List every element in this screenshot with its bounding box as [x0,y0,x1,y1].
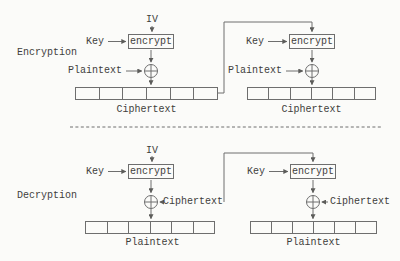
encrypt-box: encrypt [128,164,174,179]
ciphertext-caption: Ciphertext [251,104,372,115]
register-cell [291,87,312,100]
register-cell [194,221,216,234]
decryption-section-label: Decryption [17,190,77,201]
iv-label: IV [146,145,158,156]
xor-icon [145,65,158,78]
register-cell [129,221,151,234]
register-cell [356,221,377,234]
register-cell [247,87,269,100]
cfb-mode-diagram: Encryption IV Key encrypt Plaintext Ciph… [0,0,400,261]
register-cell [272,221,293,234]
plaintext-label: Plaintext [228,65,282,76]
iv-label: IV [146,14,158,25]
register-cell [269,87,290,100]
plaintext-register [250,221,377,234]
register-cell [172,221,194,234]
register-cell [333,87,354,100]
ciphertext-register [247,87,376,100]
register-cell [171,87,195,100]
xor-icon [145,196,158,209]
register-cell [151,221,173,234]
encrypt-box: encrypt [128,34,174,49]
plaintext-caption: Plaintext [253,237,374,248]
ciphertext-caption: Ciphertext [86,104,207,115]
ciphertext-feedback-arrow [218,22,312,93]
register-cell [85,221,108,234]
key-label: Key [247,166,265,177]
register-cell [100,87,124,100]
xor-icon [306,65,319,78]
register-cell [75,87,100,100]
register-cell [314,221,335,234]
encrypt-box: encrypt [290,164,336,179]
register-cell [108,221,130,234]
register-cell [335,221,356,234]
ciphertext-label: Ciphertext [330,196,390,207]
plaintext-caption: Plaintext [92,237,213,248]
plaintext-register [85,221,215,234]
register-cell [250,221,272,234]
ciphertext-label: Ciphertext [163,196,223,207]
register-cell [293,221,314,234]
register-cell [194,87,218,100]
key-label: Key [246,36,264,47]
encrypt-box: encrypt [289,34,335,49]
ciphertext-register [75,87,218,100]
key-label: Key [86,166,104,177]
encryption-section-label: Encryption [17,47,77,58]
plaintext-label: Plaintext [68,65,122,76]
xor-icon [307,196,320,209]
register-cell [123,87,147,100]
register-cell [355,87,376,100]
register-cell [312,87,333,100]
register-cell [147,87,171,100]
key-label: Key [86,36,104,47]
